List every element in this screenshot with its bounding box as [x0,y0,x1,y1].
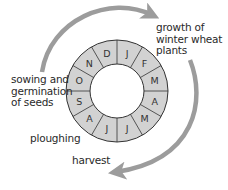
month-label: A [86,113,93,124]
month-label: J [125,48,129,59]
label-sowing-line-1: sowing and [11,74,72,86]
month-label: A [151,96,158,107]
month-label: J [125,123,129,134]
label-growth: growth of winter wheat plants [156,22,222,57]
month-label: O [76,75,83,86]
label-sowing-line-3: of seeds [11,97,72,109]
label-harvest: harvest [72,155,110,167]
month-label: J [105,123,109,134]
month-label: N [86,58,93,69]
month-label: S [76,96,82,107]
month-label: D [103,48,110,59]
label-growth-line-1: growth of [156,22,222,34]
label-growth-line-3: plants [156,45,222,57]
label-ploughing: ploughing [30,133,80,145]
month-label: M [140,113,148,124]
month-ring: JFMAMJJASOND [66,40,168,142]
month-label: M [151,75,159,86]
label-sowing: sowing and germination of seeds [11,74,72,109]
month-label: F [142,58,147,69]
